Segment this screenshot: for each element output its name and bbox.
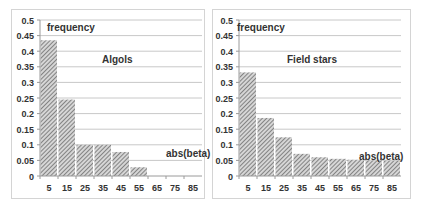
bar-55 bbox=[330, 159, 347, 176]
svg-text:0.35: 0.35 bbox=[16, 62, 34, 72]
bar-25 bbox=[77, 145, 94, 176]
svg-text:0.25: 0.25 bbox=[215, 94, 233, 104]
svg-text:75: 75 bbox=[369, 183, 379, 193]
svg-text:35: 35 bbox=[98, 183, 108, 193]
svg-text:65: 65 bbox=[152, 183, 162, 193]
bar-45 bbox=[312, 157, 329, 176]
svg-text:0.25: 0.25 bbox=[16, 94, 34, 104]
svg-text:0.45: 0.45 bbox=[16, 31, 34, 41]
svg-text:0.05: 0.05 bbox=[215, 156, 233, 166]
ylabel-frequency: frequency bbox=[47, 22, 95, 33]
svg-text:0.1: 0.1 bbox=[220, 140, 233, 150]
svg-text:0.15: 0.15 bbox=[16, 125, 34, 135]
svg-text:0: 0 bbox=[228, 172, 233, 182]
bar-75 bbox=[366, 160, 383, 176]
bar-15 bbox=[59, 100, 76, 176]
bar-65 bbox=[348, 160, 365, 176]
svg-text:5: 5 bbox=[245, 183, 250, 193]
svg-text:0.45: 0.45 bbox=[215, 31, 233, 41]
xlabel-abs-beta: abs(beta) bbox=[359, 151, 403, 162]
chart-title-algols: Algols bbox=[102, 54, 133, 65]
svg-text:0.4: 0.4 bbox=[220, 47, 233, 57]
ylabel-frequency: frequency bbox=[237, 22, 285, 33]
bar-35 bbox=[95, 145, 112, 176]
svg-text:35: 35 bbox=[297, 183, 307, 193]
svg-text:0.3: 0.3 bbox=[220, 78, 233, 88]
bar-25 bbox=[276, 137, 293, 176]
svg-text:0.5: 0.5 bbox=[21, 16, 34, 26]
svg-text:0.2: 0.2 bbox=[220, 109, 233, 119]
chart-title-field-stars: Field stars bbox=[287, 54, 337, 65]
svg-text:15: 15 bbox=[62, 183, 72, 193]
bar-45 bbox=[113, 152, 130, 176]
svg-text:0.35: 0.35 bbox=[215, 62, 233, 72]
bar-35 bbox=[294, 154, 311, 176]
svg-text:0.05: 0.05 bbox=[16, 156, 34, 166]
svg-text:55: 55 bbox=[134, 183, 144, 193]
svg-text:0: 0 bbox=[29, 172, 34, 182]
chart-panel-algols: 00.050.10.150.20.250.30.350.40.450.55152… bbox=[11, 9, 205, 199]
svg-text:45: 45 bbox=[315, 183, 325, 193]
chart-field-stars: 00.050.10.150.20.250.30.350.40.450.55152… bbox=[213, 10, 410, 198]
svg-text:85: 85 bbox=[188, 183, 198, 193]
svg-text:25: 25 bbox=[279, 183, 289, 193]
svg-text:65: 65 bbox=[351, 183, 361, 193]
svg-text:0.15: 0.15 bbox=[215, 125, 233, 135]
chart-panel-field-stars: 00.050.10.150.20.250.30.350.40.450.55152… bbox=[212, 9, 411, 199]
bar-5 bbox=[240, 72, 257, 176]
xlabel-abs-beta: abs(beta) bbox=[166, 148, 210, 159]
svg-text:0.1: 0.1 bbox=[21, 140, 34, 150]
svg-text:25: 25 bbox=[80, 183, 90, 193]
svg-text:15: 15 bbox=[261, 183, 271, 193]
svg-text:85: 85 bbox=[387, 183, 397, 193]
bar-55 bbox=[131, 167, 148, 176]
svg-text:0.4: 0.4 bbox=[21, 47, 34, 57]
svg-text:0.3: 0.3 bbox=[21, 78, 34, 88]
svg-text:45: 45 bbox=[116, 183, 126, 193]
chart-algols: 00.050.10.150.20.250.30.350.40.450.55152… bbox=[12, 10, 204, 198]
bar-85 bbox=[384, 161, 401, 176]
bar-5 bbox=[41, 40, 58, 176]
bar-15 bbox=[258, 118, 275, 176]
svg-text:0.5: 0.5 bbox=[220, 16, 233, 26]
svg-text:5: 5 bbox=[46, 183, 51, 193]
svg-text:0.2: 0.2 bbox=[21, 109, 34, 119]
svg-text:75: 75 bbox=[170, 183, 180, 193]
svg-text:55: 55 bbox=[333, 183, 343, 193]
